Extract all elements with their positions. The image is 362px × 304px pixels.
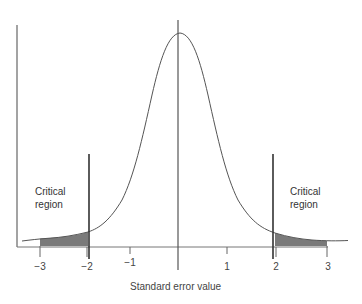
right-critical-region-label: Critical region [290,185,321,211]
tick-label-1: 1 [217,261,237,272]
label-line: region [35,198,66,211]
tick-label-neg1: −1 [120,257,140,268]
tick-label-2: 2 [266,261,286,272]
label-line: region [290,198,321,211]
tick-label-neg3: −3 [30,261,50,272]
tick-label-neg2: −2 [77,261,97,272]
label-line: Critical [290,185,321,198]
left-critical-region-label: Critical region [35,185,66,211]
tick-label-3: 3 [318,261,338,272]
normal-distribution-diagram [0,0,362,304]
x-axis-title: Standard error value [130,280,221,293]
label-line: Critical [35,185,66,198]
